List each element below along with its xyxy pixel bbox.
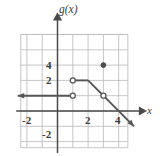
grid-border (21, 35, 128, 148)
x-tick-label-4: 4 (115, 115, 121, 126)
open-circle-point (70, 78, 75, 83)
open-circle-point (70, 93, 75, 98)
y-axis-label: g(x) (59, 4, 78, 16)
x-tick-label-2: 2 (85, 115, 91, 126)
y-tick-label-4: 4 (46, 60, 52, 71)
y-tick-label-2: 2 (46, 75, 52, 86)
y-tick-label-neg2: -2 (42, 129, 51, 140)
x-axis-label: x (147, 105, 152, 116)
graph-segment (88, 80, 134, 126)
graph-figure: g(x) x 4 2 -2 -2 2 4 (0, 0, 160, 156)
filled-circle-point (101, 63, 106, 68)
open-circle-point (101, 93, 106, 98)
gridlines (21, 35, 128, 148)
coordinate-plot (0, 0, 160, 156)
x-axis-arrowhead (139, 106, 147, 115)
x-tick-label-neg2: -2 (22, 115, 31, 126)
axis-lines (16, 12, 147, 153)
